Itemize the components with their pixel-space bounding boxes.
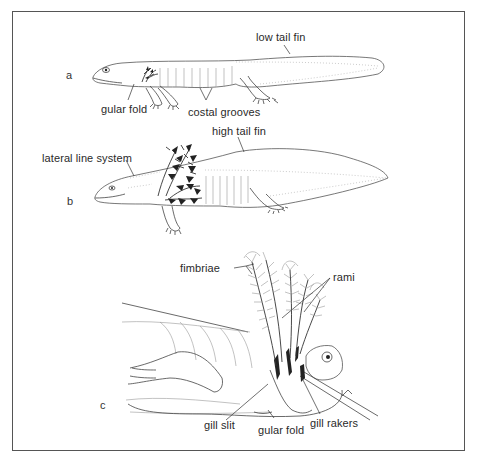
annotation-gular-fold-c: gular fold	[258, 425, 304, 436]
panel-label-c: c	[100, 400, 106, 411]
panel-a-salamander-illustration	[93, 56, 384, 110]
annotation-gill-rakers: gill rakers	[310, 418, 358, 429]
leader-gill-slit	[226, 384, 268, 420]
annotation-gular-fold-a: gular fold	[101, 104, 147, 115]
annotation-gill-slit: gill slit	[204, 420, 235, 431]
annotation-rami: rami	[333, 272, 355, 283]
annotation-fimbriae: fimbriae	[180, 263, 220, 274]
leader-fimbriae	[234, 264, 254, 274]
annotation-high-tail-fin: high tail fin	[212, 126, 266, 137]
leader-high-tail-fin	[238, 137, 244, 152]
figure-stage: a b c low tail fin gular fold costal gro…	[0, 0, 478, 463]
panel-label-b: b	[67, 196, 73, 207]
leader-costal-grooves	[200, 88, 212, 100]
annotation-low-tail-fin: low tail fin	[256, 32, 306, 43]
panel-label-a: a	[66, 70, 72, 81]
annotation-costal-grooves: costal grooves	[188, 107, 260, 118]
annotation-lateral-line-system: lateral line system	[42, 153, 132, 164]
leader-gill-rakers	[302, 378, 320, 414]
panel-b-axolotl-illustration	[95, 144, 388, 235]
leader-low-tail-fin	[284, 45, 290, 54]
